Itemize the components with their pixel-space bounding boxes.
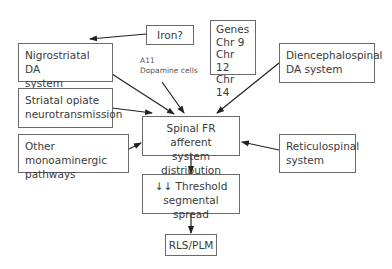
node-other-line2: pathways [25,167,122,181]
arrow-reticulospinal-to-spinal [242,142,279,150]
node-nigrostriatal: Nigrostriatal DA system [18,43,113,82]
label-a11-line2: Dopamine cells [140,66,198,76]
node-threshold-line1: ↓↓ Threshold [149,179,233,193]
node-rls-label: RLS/PLM [169,239,214,251]
node-genes-line4: Chr 14 [216,73,250,98]
node-striatal-line2: neurotransmission [25,107,106,121]
node-reticulospinal: Reticulospinal system [279,134,356,173]
node-threshold: ↓↓ Threshold segmental spread [142,174,240,214]
label-a11-line1: A11 [140,56,198,66]
node-other-line1: Other monoaminergic [25,139,122,167]
node-spinal-line1: Spinal FR afferent [149,121,233,149]
label-a11: A11 Dopamine cells [140,56,198,76]
node-diencephalospinal-line1: Diencephalospinal [286,48,368,62]
node-striatal: Striatal opiate neurotransmission [18,88,113,128]
arrow-iron-to-nigrostriatal [90,34,146,39]
node-spinal-line2: system distribution [149,149,233,177]
node-threshold-line2: segmental spread [149,193,233,221]
node-spinal-fr: Spinal FR afferent system distribution [142,116,240,156]
node-genes-line3: Chr 12 [216,48,250,73]
node-iron-label: Iron? [157,29,183,41]
node-genes-line2: Chr 9 [216,36,250,49]
arrow-other-to-spinal [129,143,141,149]
node-diencephalospinal-line2: DA system [286,62,368,76]
node-rls-plm: RLS/PLM [165,234,217,256]
node-reticulospinal-line2: system [286,153,349,167]
node-striatal-line1: Striatal opiate [25,93,106,107]
node-genes: Genes Chr 9 Chr 12 Chr 14 [210,20,256,75]
node-diencephalospinal: Diencephalospinal DA system [279,43,375,83]
node-iron: Iron? [146,25,194,45]
node-nigrostriatal-line1: Nigrostriatal DA [25,48,106,76]
node-genes-line1: Genes [216,23,250,36]
node-reticulospinal-line1: Reticulospinal [286,139,349,153]
node-other-monoaminergic: Other monoaminergic pathways [18,134,129,173]
